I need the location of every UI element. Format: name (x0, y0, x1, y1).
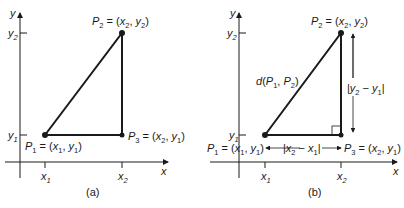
x1-tick-label: x1 (260, 170, 271, 185)
y-axis-label: y (9, 7, 17, 19)
hypotenuse-label: d(P1, P2) (256, 75, 299, 90)
p3-label: P3 = (x2, y1) (128, 130, 185, 145)
x2-tick-label: x2 (336, 170, 348, 185)
y-axis-label: y (229, 7, 237, 19)
point-p3 (120, 133, 125, 138)
y2-tick-label: y2 (226, 27, 238, 42)
panel-a: y x y2 y1 x1 x2 P2 = (x2, y2) P3 = (x2, … (5, 7, 185, 198)
p3-label: P3 = (x2, y1) (344, 142, 401, 157)
panel-b: y x y2 y1 x1 x2 |y2 − y1| |x2 − x1| d(P1… (207, 7, 401, 198)
p2-label: P2 = (x2, y2) (311, 15, 368, 30)
distance-formula-figure: y x y2 y1 x1 x2 P2 = (x2, y2) P3 = (x2, … (0, 0, 404, 208)
point-p2 (119, 30, 125, 36)
p2-label: P2 = (x2, y2) (92, 15, 149, 30)
y2-tick-label: y2 (7, 27, 19, 42)
x2-tick-label: x2 (117, 170, 129, 185)
p1-label: P1 = (x1, y1) (25, 140, 82, 155)
p1-label: P1 = (x1, y1) (207, 142, 264, 157)
caption-a: (a) (86, 186, 99, 198)
triangle (45, 33, 122, 135)
point-p1 (42, 132, 48, 138)
point-p2 (338, 30, 344, 36)
x-axis-label: x (160, 165, 167, 177)
x1-tick-label: x1 (40, 170, 51, 185)
y1-tick-label: y1 (7, 129, 18, 144)
x-axis-label: x (392, 165, 399, 177)
point-p3 (339, 133, 344, 138)
caption-b: (b) (308, 186, 321, 198)
horizontal-distance-label: |x2 − x1| (283, 142, 321, 157)
point-p1 (262, 132, 268, 138)
